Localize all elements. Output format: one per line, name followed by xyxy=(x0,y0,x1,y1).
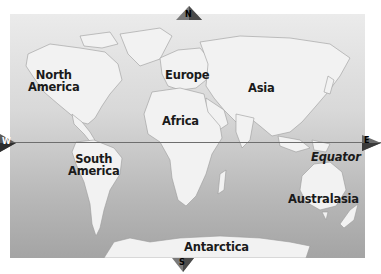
continents-layer xyxy=(10,14,365,258)
label-equator: Equator xyxy=(311,151,361,163)
north-america-line2: America xyxy=(28,81,79,93)
south-america-line2: America xyxy=(68,165,119,177)
compass-east: E xyxy=(362,135,381,151)
west-letter: W xyxy=(2,137,11,146)
label-north-america: North America xyxy=(28,69,79,93)
africa-text: Africa xyxy=(162,115,199,127)
south-letter: S xyxy=(179,258,185,267)
label-europe: Europe xyxy=(165,69,209,81)
world-map: North America Europe Asia Africa South A… xyxy=(10,14,365,258)
asia-text: Asia xyxy=(248,82,275,94)
north-letter: N xyxy=(185,10,192,19)
compass-south: S xyxy=(172,258,194,272)
label-south-america: South America xyxy=(68,153,119,177)
australasia-text: Australasia xyxy=(288,193,359,205)
label-asia: Asia xyxy=(248,82,275,94)
compass-north: N xyxy=(176,6,202,20)
label-africa: Africa xyxy=(162,115,199,127)
europe-text: Europe xyxy=(165,69,209,81)
east-letter: E xyxy=(364,136,369,145)
antarctica-text: Antarctica xyxy=(184,241,249,253)
compass-west: W xyxy=(0,134,16,152)
label-australasia: Australasia xyxy=(288,193,359,205)
label-antarctica: Antarctica xyxy=(184,241,249,253)
equator-line xyxy=(0,142,381,143)
equator-text: Equator xyxy=(311,151,361,163)
